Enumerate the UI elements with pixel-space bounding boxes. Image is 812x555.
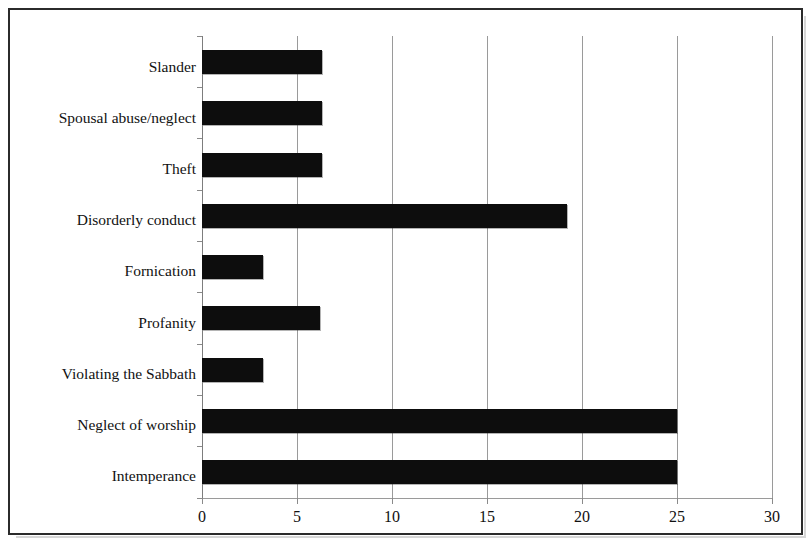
category-label: Fornication [125,263,196,279]
x-axis-label-10: 10 [384,508,400,526]
x-axis-labels: 0 5 10 15 20 25 30 [202,0,772,555]
category-label: Violating the Sabbath [62,366,196,382]
x-axis-label-25: 25 [669,508,685,526]
x-axis-label-0: 0 [198,508,206,526]
x-axis-tick [772,498,773,504]
category-label: Disorderly conduct [77,212,196,228]
category-label: Spousal abuse/neglect [59,110,196,126]
category-label: Intemperance [112,468,196,484]
category-label: Profanity [138,315,196,331]
category-label: Theft [162,161,196,177]
category-label: Slander [149,59,196,75]
x-axis-label-30: 30 [764,508,780,526]
bar-chart-figure: Slander Spousal abuse/neglect Theft Diso… [0,0,812,555]
x-axis-label-5: 5 [293,508,301,526]
category-axis-labels: Slander Spousal abuse/neglect Theft Diso… [0,36,196,498]
x-axis-label-15: 15 [479,508,495,526]
gridline-30 [772,36,773,498]
x-axis-label-20: 20 [574,508,590,526]
category-label: Neglect of worship [77,417,196,433]
